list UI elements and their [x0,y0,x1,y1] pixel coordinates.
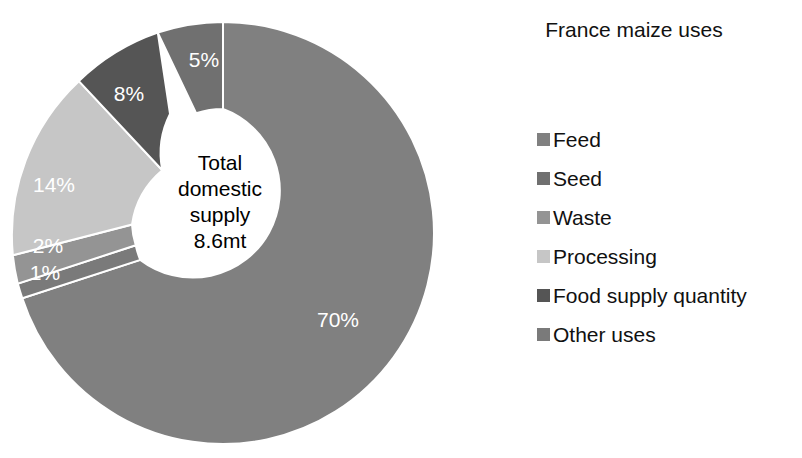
slice-label-waste: 2% [33,234,63,257]
legend-item-food-supply-quantity[interactable]: Food supply quantity [537,276,802,315]
chart-legend: Feed Seed Waste Processing Food supply q… [537,120,802,354]
legend-item-waste[interactable]: Waste [537,198,802,237]
donut-center-label: Total domestic supply 8.6mt [135,150,305,254]
legend-swatch-icon [537,328,550,341]
slice-label-other-uses: 1% [30,261,60,284]
legend-label: Processing [553,246,657,267]
legend-item-feed[interactable]: Feed [537,120,802,159]
legend-label: Seed [553,168,602,189]
slice-label-processing: 14% [33,173,75,196]
legend-label: Feed [553,129,601,150]
legend-item-processing[interactable]: Processing [537,237,802,276]
legend-swatch-icon [537,172,550,185]
center-line-3: supply [135,202,305,228]
legend-label: Other uses [553,324,656,345]
slice-label-food-supply-quantity: 8% [114,82,144,105]
legend-label: Waste [553,207,612,228]
legend-swatch-icon [537,250,550,263]
legend-label: Food supply quantity [553,285,747,306]
slice-label-seed: 5% [189,48,219,71]
center-line-4: 8.6mt [135,228,305,254]
legend-item-other-uses[interactable]: Other uses [537,315,802,354]
legend-swatch-icon [537,133,550,146]
center-line-1: Total [135,150,305,176]
slice-label-feed: 70% [317,308,359,331]
legend-item-seed[interactable]: Seed [537,159,802,198]
legend-swatch-icon [537,289,550,302]
center-line-2: domestic [135,176,305,202]
legend-swatch-icon [537,211,550,224]
donut-chart-area: 70% 5% 8% 14% 2% 1% Total domestic suppl… [0,0,470,458]
chart-title: France maize uses [466,18,802,42]
